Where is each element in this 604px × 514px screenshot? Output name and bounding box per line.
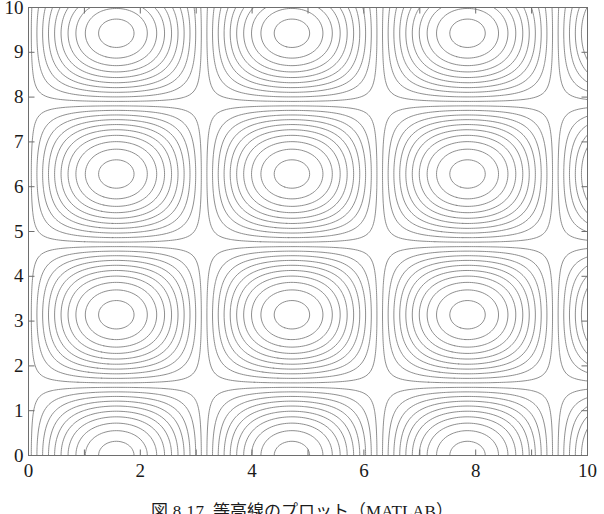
contour-level-path	[412, 130, 522, 219]
contour-level-path	[244, 276, 341, 353]
contour-level-path	[85, 8, 147, 58]
contour-level-path	[68, 8, 164, 72]
contour-level-path	[388, 8, 547, 97]
contour-level-path	[274, 441, 309, 455]
contour-level-path	[244, 135, 341, 212]
contour-level-path	[224, 120, 360, 229]
contour-level-path	[261, 8, 323, 58]
contour-level-path	[406, 265, 529, 364]
contour-level-path	[274, 301, 309, 329]
contour-level-path	[394, 396, 541, 455]
contour-level-path	[437, 149, 499, 199]
contour-level-path	[419, 276, 515, 353]
contour-level-path	[252, 142, 333, 207]
y-tick-label-10: 10	[5, 0, 24, 17]
contour-level-path	[419, 8, 515, 72]
x-tick-label-4: 4	[212, 461, 292, 480]
contour-level-path	[55, 125, 178, 224]
contour-level-path	[569, 8, 587, 83]
y-tick-label-2: 2	[14, 356, 24, 375]
y-tick-label-5: 5	[14, 222, 24, 241]
contour-level-path	[558, 108, 587, 240]
contour-level-path	[261, 290, 323, 340]
contour-level-path	[37, 8, 196, 97]
contour-level-path	[31, 247, 201, 383]
contour-level-path	[581, 288, 587, 341]
y-tick-label-9: 9	[14, 42, 24, 61]
contour-level-path	[400, 260, 536, 369]
contour-level-path	[569, 407, 587, 456]
contour-plot-area	[0, 0, 604, 470]
y-tick-label-7: 7	[14, 132, 24, 151]
contour-level-path	[412, 270, 522, 359]
contour-level-path	[383, 247, 553, 383]
caption-number: 8.17	[173, 502, 205, 514]
y-tick-label-1: 1	[14, 401, 24, 420]
contour-level-path	[252, 282, 333, 347]
contour-level-path	[237, 411, 348, 455]
contour-level-path	[394, 115, 541, 233]
contour-level-path	[85, 431, 147, 456]
contour-level-path	[218, 8, 365, 93]
contour-level-path	[437, 431, 499, 456]
x-tick-label-2: 2	[100, 461, 180, 480]
contour-level-path	[207, 247, 377, 383]
contour-level-path	[437, 290, 499, 340]
contour-level-path	[76, 282, 157, 347]
contour-level-path	[450, 160, 485, 188]
contour-level-path	[61, 270, 171, 359]
contour-level-path	[43, 256, 190, 374]
contour-level-path	[261, 149, 323, 199]
contour-level-path	[230, 125, 353, 224]
contour-level-path	[99, 160, 134, 188]
contour-level-path	[61, 130, 171, 219]
contour-level-path	[274, 160, 309, 188]
x-tick-label-0: 0	[0, 461, 69, 480]
contour-level-path	[252, 423, 333, 455]
y-tick-label-4: 4	[14, 266, 24, 285]
contour-level-path	[76, 142, 157, 207]
contour-level-path	[61, 411, 171, 455]
contour-level-path	[261, 431, 323, 456]
contour-level-path	[218, 256, 365, 374]
contour-level-path	[427, 282, 508, 347]
contour-level-path	[412, 411, 522, 455]
contour-level-path	[99, 301, 134, 329]
contour-level-path	[76, 423, 157, 455]
contour-level-path	[450, 301, 485, 329]
figure-root: 0123456789100246810 図 8.17 等高線のプロット（MATL…	[0, 0, 604, 514]
x-tick-label-6: 6	[324, 461, 404, 480]
contour-level-path	[427, 142, 508, 207]
contour-level-path	[237, 270, 348, 359]
contour-level-path	[85, 149, 147, 199]
contour-level-path	[237, 130, 347, 219]
y-tick-label-3: 3	[14, 311, 24, 330]
contour-level-path	[450, 441, 485, 455]
contour-level-path	[99, 19, 134, 47]
contour-level-path	[68, 276, 164, 353]
contour-level-path	[558, 249, 587, 381]
contour-level-path	[244, 8, 340, 72]
contour-level-path	[581, 147, 587, 200]
contour-level-path	[427, 8, 508, 66]
contour-level-path	[85, 290, 147, 340]
contour-level-path	[207, 106, 377, 242]
contour-plot-svg	[0, 0, 604, 470]
contour-level-path	[43, 115, 190, 233]
contour-level-path	[213, 8, 372, 97]
contour-level-path	[76, 8, 157, 66]
contour-level-path	[558, 8, 587, 100]
contour-level-path	[48, 120, 184, 229]
contour-level-path	[406, 125, 529, 224]
contour-level-path	[450, 19, 485, 47]
contour-level-path	[394, 256, 541, 374]
caption-prefix: 図	[151, 502, 169, 514]
figure-caption: 図 8.17 等高線のプロット（MATLAB）	[0, 497, 604, 514]
contour-level-path	[31, 106, 201, 242]
contour-level-path	[43, 396, 190, 455]
contour-level-path	[419, 135, 515, 212]
contour-level-path	[218, 115, 365, 233]
contour-level-path	[230, 265, 353, 364]
contour-level-path	[218, 396, 365, 455]
contour-level-path	[581, 429, 587, 456]
